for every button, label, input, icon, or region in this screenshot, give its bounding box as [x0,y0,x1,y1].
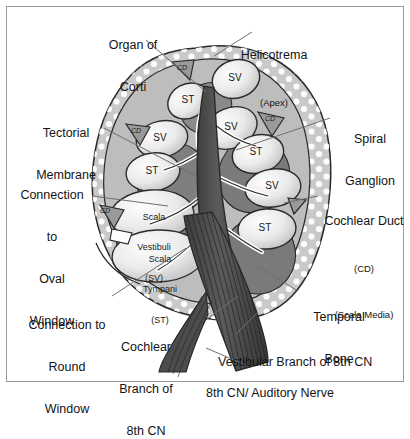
chamber-marker-sv-lower-right: SV [258,180,286,191]
label-oval-window-line2: to [6,230,98,244]
label-round-window-line2: Round [18,360,116,374]
label-helicotrema-sub: (Apex) [222,98,326,109]
label-organ-of-corti-line1: Organ of [84,38,182,52]
label-cochlear-duct-sub1: (CD) [318,264,410,275]
inner-label-scala-tympani: Scala Tympani (ST) [124,234,196,345]
label-temporal-bone-line1: Temporal [296,310,382,324]
chamber-marker-st-upper-right: ST [242,146,270,157]
chamber-marker-st-left-mid: ST [138,165,166,176]
chamber-marker-st-apex: ST [174,94,202,105]
inner-label-scala-tympani-line2: Tympani [124,284,196,294]
label-spiral-ganglion-line1: Spiral [332,132,408,146]
label-organ-of-corti-line2: Corti [84,80,182,94]
label-tectorial-membrane-line1: Tectorial [14,126,118,140]
chamber-marker-cd-upper-right: CD [256,115,284,123]
label-connection-round-window: Connection to Round Window [18,290,116,439]
label-auditory-nerve: 8th CN/ Auditory Nerve [206,358,396,428]
inner-label-scala-tympani-line3: (ST) [124,315,196,325]
label-round-window-line1: Connection to [18,318,116,332]
label-round-window-line3: Window [18,402,116,416]
chamber-marker-sv-upper-right: SV [217,121,245,132]
label-oval-window-line1: Connection [6,188,98,202]
chamber-marker-cd-left-low: CD [91,207,119,215]
label-cochlear-branch-line2: Branch of [106,382,186,396]
inner-label-scala-tympani-line1: Scala [124,254,196,264]
label-oval-window-line3: Oval [6,272,98,286]
chamber-marker-sv-apex: SV [221,72,249,83]
chamber-marker-st-lower-right: ST [251,222,279,233]
inner-label-scala-vestibuli-line1: Scala [118,212,190,222]
chamber-marker-cd-left-mid: CD [122,127,150,135]
label-cochlear-duct-line1: Cochlear Duct [318,214,410,228]
label-cochlear-branch-line3: 8th CN [106,424,186,438]
label-helicotrema-line1: Helicotrema [222,48,326,62]
label-auditory-nerve-line1: 8th CN/ Auditory Nerve [206,386,396,400]
chamber-marker-cd-apex: CD [168,64,196,72]
chamber-marker-sv-left-mid: SV [146,132,174,143]
